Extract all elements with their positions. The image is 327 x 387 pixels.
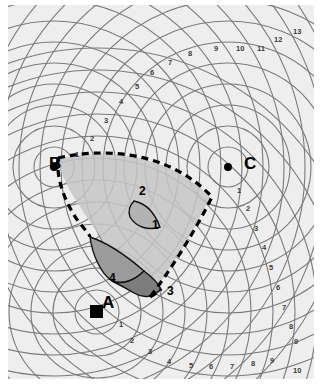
station-marker-c [224, 163, 232, 171]
lattice-tick-label: 4 [167, 358, 171, 366]
lattice-tick-label: 6 [276, 284, 280, 292]
region-label-4: 4 [109, 272, 116, 284]
lattice-tick-label: 8 [188, 50, 192, 58]
lattice-tick-label: 7 [230, 363, 234, 371]
lattice-tick-label: 9 [294, 338, 298, 346]
lattice-tick-label: 5 [189, 362, 193, 370]
lattice-tick-label: 1 [119, 321, 123, 329]
lattice-tick-label: 13 [293, 28, 301, 36]
lattice-grid-svg [8, 5, 314, 379]
lattice-tick-label: 10 [236, 45, 244, 53]
lattice-tick-label: 3 [148, 348, 152, 356]
lattice-tick-label: 6 [209, 363, 213, 371]
lattice-tick-label: 7 [282, 304, 286, 312]
lattice-tick-label: 12 [274, 36, 282, 44]
station-label-b: B [49, 155, 61, 172]
lattice-tick-label: 1 [75, 151, 79, 159]
lattice-tick-label: 11 [257, 45, 265, 53]
lattice-tick-label: 7 [168, 59, 172, 67]
lattice-tick-label: 2 [246, 205, 250, 213]
plot-area: BCA1234123456789101112131234567891234567… [8, 5, 314, 379]
region-label-1: 1 [152, 219, 159, 231]
navigation-lattice-figure: BCA1234123456789101112131234567891234567… [0, 0, 327, 387]
lattice-tick-label: 3 [104, 117, 108, 125]
lattice-tick-label: 8 [289, 323, 293, 331]
lattice-tick-label: 1 [237, 187, 241, 195]
lattice-tick-label: 8 [251, 360, 255, 368]
lattice-tick-label: 4 [262, 244, 266, 252]
lattice-tick-label: 2 [90, 135, 94, 143]
lattice-tick-label: 5 [135, 83, 139, 91]
lattice-tick-label: 4 [119, 98, 123, 106]
station-label-a: A [102, 294, 114, 311]
region-label-3: 3 [167, 285, 174, 297]
region-label-2: 2 [139, 185, 146, 197]
lattice-tick-label: 9 [214, 45, 218, 53]
station-label-c: C [244, 155, 256, 172]
lattice-tick-label: 6 [150, 69, 154, 77]
lattice-tick-label: 3 [254, 225, 258, 233]
lattice-tick-label: 10 [293, 367, 301, 375]
lattice-tick-label: 9 [270, 357, 274, 365]
lattice-tick-label: 2 [130, 337, 134, 345]
lattice-tick-label: 5 [269, 264, 273, 272]
